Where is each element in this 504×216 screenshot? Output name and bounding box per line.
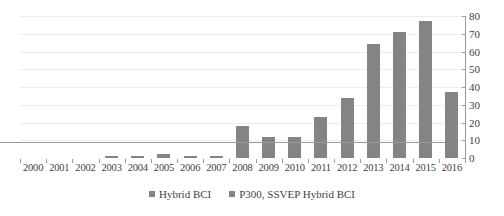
bar[interactable] <box>157 154 170 158</box>
bar-slot <box>308 16 334 158</box>
bar-slot <box>203 16 229 158</box>
x-axis-label: 2014 <box>386 162 412 173</box>
bar-slot <box>20 16 46 158</box>
y-axis-tick <box>462 16 466 17</box>
y-axis-labels: 01020304050607080 <box>469 0 503 216</box>
bar[interactable] <box>184 156 197 158</box>
y-axis-label: 10 <box>469 135 480 146</box>
bar[interactable] <box>445 92 458 158</box>
bar[interactable] <box>288 137 301 158</box>
bar-slot <box>282 16 308 158</box>
x-axis-label: 2000 <box>20 162 46 173</box>
y-axis-tick <box>462 34 466 35</box>
bar-slot <box>177 16 203 158</box>
bar-slot <box>334 16 360 158</box>
y-axis-tick <box>462 140 466 141</box>
plot-area <box>20 16 465 158</box>
bar-slot <box>256 16 282 158</box>
x-axis-label: 2012 <box>334 162 360 173</box>
bar-slot <box>46 16 72 158</box>
legend-item[interactable]: P300, SSVEP Hybrid BCI <box>229 188 355 200</box>
bar[interactable] <box>262 137 275 158</box>
legend-item[interactable]: Hybrid BCI <box>149 188 211 200</box>
bar-slot <box>413 16 439 158</box>
bar-slot <box>386 16 412 158</box>
bar-slot <box>439 16 465 158</box>
x-axis-label: 2003 <box>99 162 125 173</box>
bar-slot <box>229 16 255 158</box>
y-axis-tick <box>462 52 466 53</box>
x-axis-label: 2002 <box>72 162 98 173</box>
x-axis-label: 2013 <box>360 162 386 173</box>
legend-label: P300, SSVEP Hybrid BCI <box>239 188 355 200</box>
x-axis-label: 2004 <box>125 162 151 173</box>
legend-swatch-icon <box>229 191 235 197</box>
x-axis-labels: 2000200120022003200420052006200720082009… <box>20 162 465 173</box>
x-axis-line <box>0 142 445 143</box>
bar[interactable] <box>210 156 223 158</box>
y-axis-label: 40 <box>469 82 480 93</box>
y-axis-tick <box>462 105 466 106</box>
y-axis-label: 70 <box>469 29 480 40</box>
y-axis-label: 50 <box>469 64 480 75</box>
bar[interactable] <box>131 156 144 158</box>
y-axis-tick <box>462 123 466 124</box>
y-axis-label: 0 <box>469 153 475 164</box>
bar-slot <box>125 16 151 158</box>
x-axis-label: 2005 <box>151 162 177 173</box>
bar-series-group <box>20 16 465 158</box>
x-axis-label: 2008 <box>229 162 255 173</box>
y-axis-tick <box>462 69 466 70</box>
legend-label: Hybrid BCI <box>159 188 211 200</box>
legend-swatch-icon <box>149 191 155 197</box>
x-axis-label: 2009 <box>256 162 282 173</box>
chart-legend: Hybrid BCIP300, SSVEP Hybrid BCI <box>0 188 504 200</box>
y-axis-label: 80 <box>469 11 480 22</box>
y-axis-ticks <box>462 0 466 216</box>
bar[interactable] <box>367 44 380 158</box>
bar[interactable] <box>341 98 354 158</box>
y-axis-tick <box>462 87 466 88</box>
bar[interactable] <box>419 21 432 158</box>
x-axis-label: 2015 <box>413 162 439 173</box>
y-axis-label: 30 <box>469 100 480 111</box>
x-axis-label: 2010 <box>282 162 308 173</box>
x-axis-label: 2007 <box>203 162 229 173</box>
bar-slot <box>360 16 386 158</box>
x-axis-label: 2001 <box>46 162 72 173</box>
bar-chart: 2000200120022003200420052006200720082009… <box>0 0 504 216</box>
bar[interactable] <box>393 32 406 158</box>
bar-slot <box>72 16 98 158</box>
x-axis-label: 2016 <box>439 162 465 173</box>
x-axis-label: 2011 <box>308 162 334 173</box>
y-axis-tick <box>462 158 466 159</box>
bar[interactable] <box>314 117 327 158</box>
y-axis-label: 20 <box>469 118 480 129</box>
bar-slot <box>151 16 177 158</box>
bar[interactable] <box>105 156 118 158</box>
x-axis-label: 2006 <box>177 162 203 173</box>
y-axis-label: 60 <box>469 47 480 58</box>
bar-slot <box>99 16 125 158</box>
